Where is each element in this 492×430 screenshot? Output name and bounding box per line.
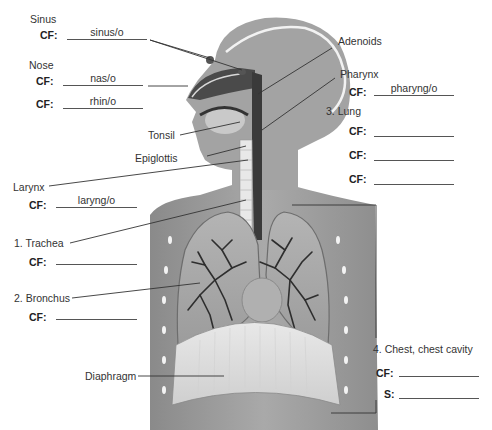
pharynx-cf-label: CF: [349,86,367,98]
lung-cf-field-1[interactable] [374,124,454,137]
trachea-cf-label: CF: [29,256,47,268]
label-nose: Nose [29,59,54,71]
label-pharynx: Pharynx [340,68,379,80]
respiratory-diagram: Sinus CF: sinus/o Nose CF: nas/o CF: rhi… [0,0,492,430]
lung-cf-field-2[interactable] [374,148,454,161]
chest-cf-label: CF: [376,367,394,379]
sinus-cf-label: CF: [40,29,58,41]
chest-s-field[interactable] [399,386,479,399]
pharynx-cf-field[interactable]: pharyng/o [374,83,454,96]
nose-cf-label-2: CF: [36,98,54,110]
bronchus-cf-label: CF: [29,311,47,323]
label-epiglottis: Epiglottis [135,152,178,164]
label-chest: 4. Chest, chest cavity [373,343,473,355]
lung-cf-field-3[interactable] [374,172,454,185]
larynx-cf-label: CF: [29,199,47,211]
lung-cf-label-1: CF: [349,125,367,137]
label-trachea: 1. Trachea [14,237,64,249]
sinus-cf-field[interactable]: sinus/o [67,27,147,40]
trachea-cf-field[interactable] [56,252,137,265]
chest-s-label: S: [384,388,395,400]
label-bronchus: 2. Bronchus [14,292,70,304]
label-diaphragm: Diaphragm [85,370,136,382]
lung-cf-label-3: CF: [349,173,367,185]
lung-cf-label-2: CF: [349,149,367,161]
label-larynx: Larynx [13,181,45,193]
nose-cf-label-1: CF: [36,75,54,87]
label-sinus: Sinus [30,13,56,25]
label-lung: 3. Lung [326,105,361,117]
label-adenoids: Adenoids [338,35,382,47]
nose-cf-field-1[interactable]: nas/o [63,73,143,86]
label-tonsil: Tonsil [148,129,175,141]
chest-cf-field[interactable] [399,364,479,377]
larynx-cf-field[interactable]: laryng/o [56,195,137,208]
bronchus-cf-field[interactable] [56,307,137,320]
nose-cf-field-2[interactable]: rhin/o [63,96,143,109]
